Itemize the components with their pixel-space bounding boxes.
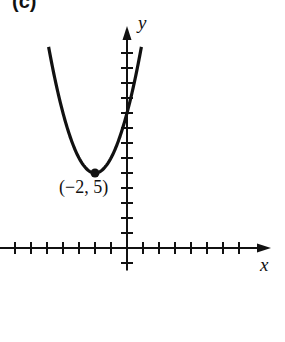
axes — [0, 26, 271, 271]
x-axis-label: x — [260, 254, 268, 276]
vertex-label: (−2, 5) — [59, 177, 108, 198]
parabola-chart — [0, 0, 285, 342]
y-axis-label: y — [138, 12, 146, 34]
